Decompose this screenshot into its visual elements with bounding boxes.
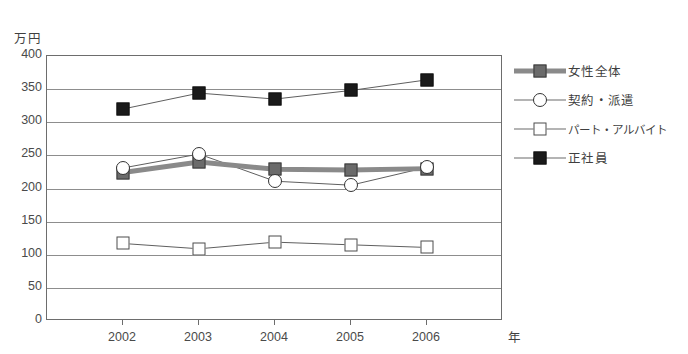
- data-point-marker: [344, 178, 358, 192]
- x-tick-label: 2002: [108, 330, 136, 344]
- legend-label: 正社員: [568, 148, 608, 167]
- data-point-marker: [421, 73, 434, 86]
- legend-label: 女性全体: [568, 61, 621, 80]
- x-tick-label: 2004: [260, 330, 288, 344]
- data-point-marker: [345, 84, 358, 97]
- legend-swatch: [512, 148, 568, 168]
- data-point-marker: [345, 238, 358, 251]
- y-tick-label: 50: [2, 279, 42, 293]
- y-axis-tick-labels: 050100150200250300350400: [0, 55, 42, 320]
- legend-swatch: [512, 119, 568, 139]
- y-tick-label: 200: [2, 180, 42, 194]
- y-tick-label: 350: [2, 80, 42, 94]
- legend-item[interactable]: 契約・派遣: [512, 85, 684, 114]
- data-point-marker: [193, 87, 206, 100]
- data-point-marker: [268, 174, 282, 188]
- legend-marker: [533, 93, 547, 107]
- x-tick-mark: [426, 320, 427, 325]
- data-point-marker: [420, 160, 434, 174]
- data-point-marker: [269, 93, 282, 106]
- legend-marker: [534, 122, 547, 135]
- data-point-marker: [269, 236, 282, 249]
- legend-label: パート・アルバイト: [568, 121, 667, 137]
- data-point-marker: [116, 161, 130, 175]
- chart-legend: 女性全体契約・派遣パート・アルバイト正社員: [512, 56, 684, 172]
- legend-marker: [534, 64, 547, 77]
- x-tick-label: 2005: [336, 330, 364, 344]
- legend-marker: [534, 151, 547, 164]
- x-tick-mark: [350, 320, 351, 325]
- y-tick-label: 0: [2, 312, 42, 326]
- x-tick-mark: [122, 320, 123, 325]
- y-tick-label: 150: [2, 213, 42, 227]
- x-tick-label: 2006: [412, 330, 440, 344]
- x-axis-unit-label: 年: [508, 327, 521, 346]
- y-tick-label: 100: [2, 246, 42, 260]
- data-point-marker: [193, 242, 206, 255]
- plot-area: [46, 55, 502, 320]
- legend-item[interactable]: 女性全体: [512, 56, 684, 85]
- x-tick-mark: [198, 320, 199, 325]
- y-tick-label: 300: [2, 113, 42, 127]
- data-point-marker: [345, 163, 358, 176]
- legend-item[interactable]: 正社員: [512, 143, 684, 172]
- data-point-marker: [421, 241, 434, 254]
- y-axis-unit-label: 万円: [14, 28, 41, 47]
- y-tick-label: 250: [2, 146, 42, 160]
- chart-figure: 万円 年 050100150200250300350400 2002200320…: [0, 0, 688, 354]
- legend-swatch: [512, 61, 568, 81]
- data-point-marker: [192, 147, 206, 161]
- legend-swatch: [512, 90, 568, 110]
- legend-item[interactable]: パート・アルバイト: [512, 114, 684, 143]
- data-point-marker: [117, 237, 130, 250]
- y-tick-label: 400: [2, 47, 42, 61]
- x-tick-label: 2003: [184, 330, 212, 344]
- x-tick-mark: [274, 320, 275, 325]
- data-point-marker: [117, 103, 130, 116]
- legend-label: 契約・派遣: [568, 90, 635, 109]
